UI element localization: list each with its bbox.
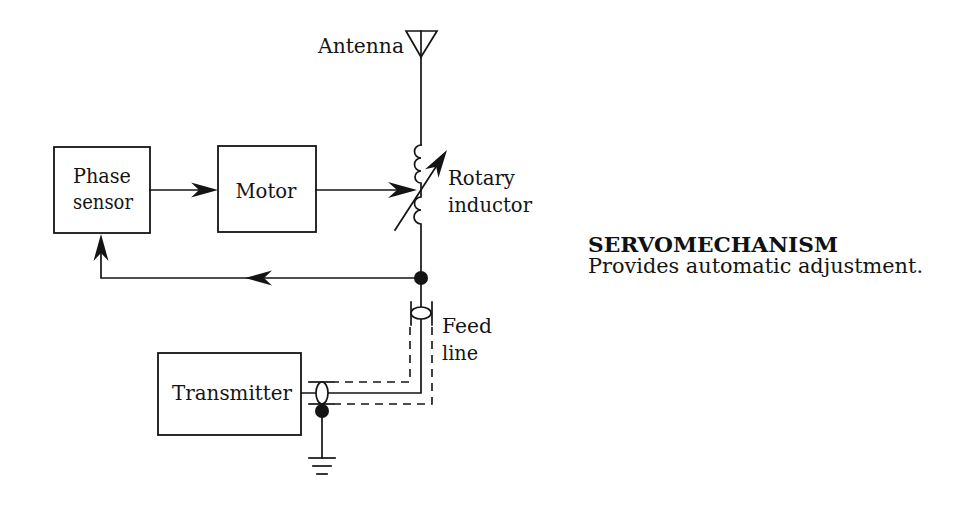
motor-block: Motor <box>218 146 316 232</box>
feedback-arrow-to-phase-sensor <box>94 234 422 286</box>
transmitter-block: Transmitter <box>158 353 301 435</box>
feed-line-label-line1: Feed <box>442 314 492 338</box>
phase-sensor-label-line2: sensor <box>73 190 133 214</box>
inductor-coil-icon <box>414 145 421 278</box>
rotary-inductor-label-line2: inductor <box>448 193 532 217</box>
antenna-label: Antenna <box>317 34 404 58</box>
caption-text: Provides automatic adjustment. <box>588 254 923 278</box>
arrow-motor-to-inductor <box>316 182 417 198</box>
coax-top-oval-icon <box>411 307 431 319</box>
phase-sensor-label-line1: Phase <box>73 164 131 188</box>
rotary-inductor-symbol <box>395 145 454 278</box>
coax-bottom-oval-icon <box>316 382 328 404</box>
antenna-symbol <box>406 31 437 57</box>
feed-line-shield-inner <box>336 327 410 382</box>
servomechanism-diagram: Antenna Rotary inductor Phase sensor Mot… <box>0 0 966 505</box>
ground-symbol <box>309 404 335 474</box>
arrow-phase-sensor-to-motor <box>150 183 218 198</box>
caption-block: SERVOMECHANISM Provides automatic adjust… <box>588 232 923 278</box>
feed-line-label-line2: line <box>442 341 478 365</box>
feed-line <box>301 278 432 404</box>
motor-label: Motor <box>236 179 297 203</box>
transmitter-label: Transmitter <box>172 381 292 405</box>
feed-line-center-conductor <box>301 278 421 393</box>
phase-sensor-block: Phase sensor <box>54 147 150 233</box>
rotary-inductor-label-line1: Rotary <box>448 166 516 190</box>
